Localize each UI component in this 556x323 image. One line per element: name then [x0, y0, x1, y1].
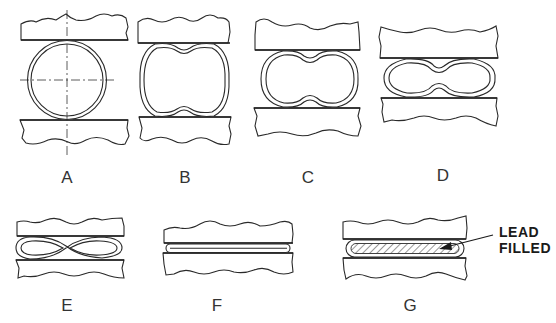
tube-outer-wall — [261, 51, 358, 107]
bottom-plate — [343, 258, 467, 280]
stage-label-g: G — [403, 296, 416, 315]
top-plate — [138, 15, 230, 43]
stage-c: C — [254, 19, 361, 187]
callout-line-2: FILLED — [499, 240, 551, 256]
stage-label-f: F — [212, 296, 222, 315]
stage-a: A — [20, 10, 129, 187]
stage-label-d: D — [437, 166, 449, 185]
stage-label-c: C — [302, 168, 314, 187]
stage-e: E — [16, 218, 124, 315]
bottom-plate — [20, 120, 129, 145]
bottom-plate — [16, 260, 124, 278]
bottom-plate — [139, 117, 231, 145]
bottom-plate — [381, 98, 498, 126]
stage-label-a: A — [61, 168, 73, 187]
tube-outer-wall — [140, 44, 229, 117]
top-plate — [21, 14, 128, 40]
stage-d: D — [379, 26, 498, 185]
top-plate — [255, 19, 360, 50]
stage-f: F — [163, 221, 293, 315]
bottom-plate — [163, 253, 293, 275]
stage-label-b: B — [179, 168, 190, 187]
top-plate — [343, 216, 467, 239]
top-plate — [379, 26, 498, 58]
stage-b: B — [138, 15, 231, 187]
top-plate — [164, 221, 293, 243]
top-plate — [17, 218, 124, 236]
tube-flattening-diagram: A B C D E — [0, 0, 556, 323]
bottom-plate — [254, 108, 361, 136]
stage-label-e: E — [61, 296, 72, 315]
stage-g: G — [343, 216, 467, 315]
callout-line-1: LEAD — [499, 224, 539, 240]
